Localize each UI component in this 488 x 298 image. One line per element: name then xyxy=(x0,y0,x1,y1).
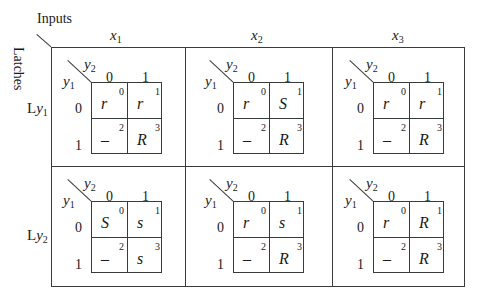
kmap-cell-2: –2 xyxy=(374,119,409,154)
kmap-col-var: y2 xyxy=(84,176,96,193)
kmap-cell-1: r1 xyxy=(410,83,445,118)
kmap-row-1: 1 xyxy=(357,138,364,154)
kmap-row-1: 1 xyxy=(75,138,82,154)
kmap-cell-1: s1 xyxy=(128,202,163,237)
column-header-x3: x3 xyxy=(392,28,404,45)
kmap-cell-0: r0 xyxy=(92,83,127,118)
kmap-cell-1: r1 xyxy=(128,83,163,118)
kmap-col-var: y2 xyxy=(366,176,378,193)
kmap-row-0: 0 xyxy=(357,101,364,117)
kmap-row-1: 1 xyxy=(75,257,82,273)
kmap-cell-0: r0 xyxy=(374,83,409,118)
kmap-block-ly2-x1: y2 y1 0 1 0 1 S0 s1 –2 s3 xyxy=(51,166,185,286)
kmap-block-ly1-x2: y2 y1 0 1 0 1 r0 S1 –2 R3 xyxy=(193,47,332,166)
kmap-col-var: y2 xyxy=(226,57,238,74)
kmap-row-var: y1 xyxy=(63,74,75,91)
kmap-row-var: y1 xyxy=(345,193,357,210)
kmap-cell-2: –2 xyxy=(92,238,127,273)
kmap-row-var: y1 xyxy=(345,74,357,91)
kmap-cell-2: –2 xyxy=(234,238,269,273)
kmap-row-1: 1 xyxy=(357,257,364,273)
grid-right-border xyxy=(464,47,465,287)
kmap-col-var: y2 xyxy=(84,57,96,74)
kmap-cell-0: r0 xyxy=(234,83,269,118)
kmap-cell-3: R3 xyxy=(128,119,163,154)
row-header-ly1: Ly1 xyxy=(27,101,48,118)
kmap-block-ly1-x3: y2 y1 0 1 0 1 r0 r1 –2 R3 xyxy=(333,47,464,166)
kmap-row-1: 1 xyxy=(217,138,224,154)
kmap-cell-2: –2 xyxy=(374,238,409,273)
grid-bottom-border xyxy=(51,286,465,287)
row-header-ly2: Ly2 xyxy=(27,228,48,245)
kmap-cell-2: –2 xyxy=(92,119,127,154)
kmap-cell-3: R3 xyxy=(410,119,445,154)
kmap: r0 S1 –2 R3 xyxy=(233,82,304,154)
kmap-cell-3: R3 xyxy=(410,238,445,273)
kmap: r0 R1 –2 R3 xyxy=(373,201,444,273)
kmap-block-ly2-x2: y2 y1 0 1 0 1 r0 s1 –2 R3 xyxy=(193,166,332,286)
kmap-block-ly1-x1: y2 y1 0 1 0 1 r0 r1 –2 R3 xyxy=(51,47,185,166)
inputs-label: Inputs xyxy=(37,12,72,26)
kmap-cell-1: s1 xyxy=(270,202,305,237)
kmap-row-0: 0 xyxy=(75,220,82,236)
kmap-cell-2: –2 xyxy=(234,119,269,154)
kmap-cell-0: S0 xyxy=(92,202,127,237)
kmap-row-var: y1 xyxy=(205,193,217,210)
kmap-cell-0: r0 xyxy=(234,202,269,237)
kmap-row-0: 0 xyxy=(217,101,224,117)
kmap-cell-1: R1 xyxy=(410,202,445,237)
kmap-row-0: 0 xyxy=(75,101,82,117)
kmap-row-var: y1 xyxy=(63,193,75,210)
kmap: r0 r1 –2 R3 xyxy=(373,82,444,154)
kmap-row-1: 1 xyxy=(217,257,224,273)
column-header-x1: x1 xyxy=(110,28,122,45)
kmap: S0 s1 –2 s3 xyxy=(91,201,162,273)
kmap-cell-3: s3 xyxy=(128,238,163,273)
latches-label: Latches xyxy=(10,47,26,91)
kmap-cell-1: S1 xyxy=(270,83,305,118)
kmap-cell-0: r0 xyxy=(374,202,409,237)
corner-diagonal xyxy=(36,34,51,47)
kmap-col-var: y2 xyxy=(226,176,238,193)
kmap-row-var: y1 xyxy=(205,74,217,91)
grid-divider-1 xyxy=(185,47,186,287)
kmap-cell-3: R3 xyxy=(270,119,305,154)
kmap-block-ly2-x3: y2 y1 0 1 0 1 r0 R1 –2 R3 xyxy=(333,166,464,286)
column-header-x2: x2 xyxy=(251,28,263,45)
kmap-cell-3: R3 xyxy=(270,238,305,273)
kmap: r0 s1 –2 R3 xyxy=(233,201,304,273)
kmap-row-0: 0 xyxy=(217,220,224,236)
kmap-row-0: 0 xyxy=(357,220,364,236)
kmap-col-var: y2 xyxy=(366,57,378,74)
kmap: r0 r1 –2 R3 xyxy=(91,82,162,154)
